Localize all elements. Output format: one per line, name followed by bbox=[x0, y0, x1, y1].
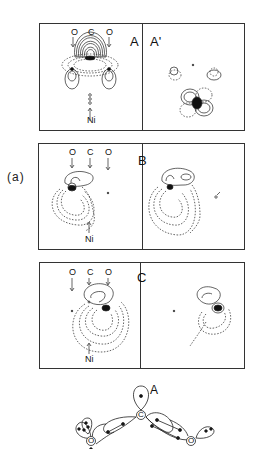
contour-plot-c bbox=[39, 262, 245, 369]
contour-plot-b bbox=[38, 143, 245, 250]
schematic-atom-o-left: O bbox=[88, 436, 94, 445]
figure-side-label: (a) bbox=[7, 170, 25, 184]
schematic-atom-o-right: O bbox=[188, 436, 194, 445]
contour-plot-a bbox=[39, 23, 245, 131]
orbital-schematic bbox=[60, 380, 230, 449]
schematic-label-a: A bbox=[150, 383, 158, 397]
schematic-atom-c: C bbox=[138, 410, 144, 419]
